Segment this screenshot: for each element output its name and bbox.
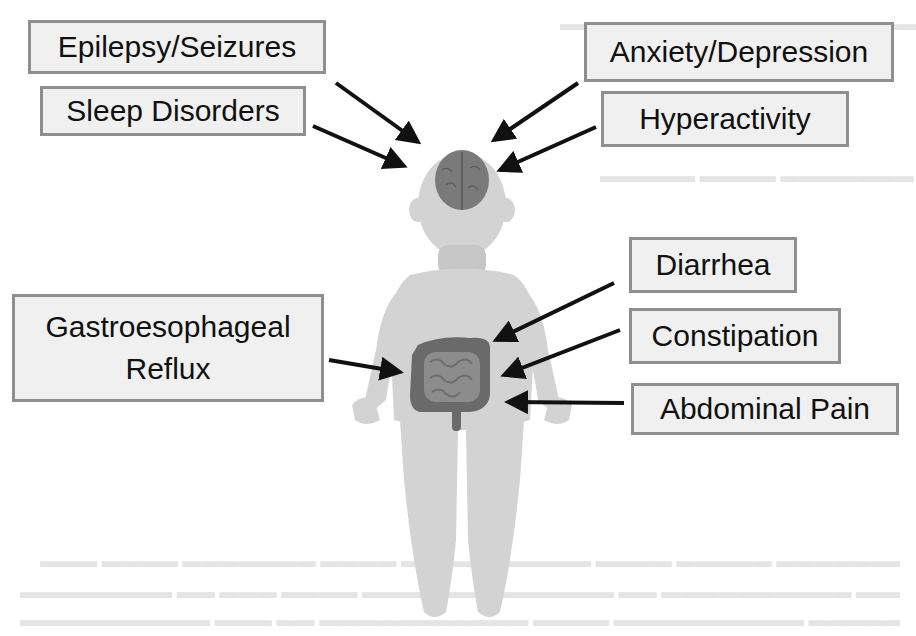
label-anxiety-depression: Anxiety/Depression xyxy=(584,22,894,82)
brain xyxy=(435,150,489,210)
label-text: Abdominal Pain xyxy=(660,391,870,427)
label-diarrhea: Diarrhea xyxy=(629,237,797,293)
label-abdominal-pain: Abdominal Pain xyxy=(631,383,899,435)
label-text: Hyperactivity xyxy=(639,101,811,137)
label-text-line2: Reflux xyxy=(125,351,210,387)
label-sleep-disorders: Sleep Disorders xyxy=(40,86,306,136)
label-text: Epilepsy/Seizures xyxy=(58,29,296,65)
label-text: Constipation xyxy=(652,318,819,354)
label-text: Anxiety/Depression xyxy=(610,34,868,70)
label-epilepsy-seizures: Epilepsy/Seizures xyxy=(28,20,326,74)
label-text: Diarrhea xyxy=(655,247,770,283)
label-text-line1: Gastroesophageal xyxy=(45,309,290,345)
label-constipation: Constipation xyxy=(629,308,841,364)
label-hyperactivity: Hyperactivity xyxy=(601,91,849,147)
label-gastroesophageal-reflux: Gastroesophageal Reflux xyxy=(12,294,324,402)
label-text: Sleep Disorders xyxy=(66,93,279,129)
